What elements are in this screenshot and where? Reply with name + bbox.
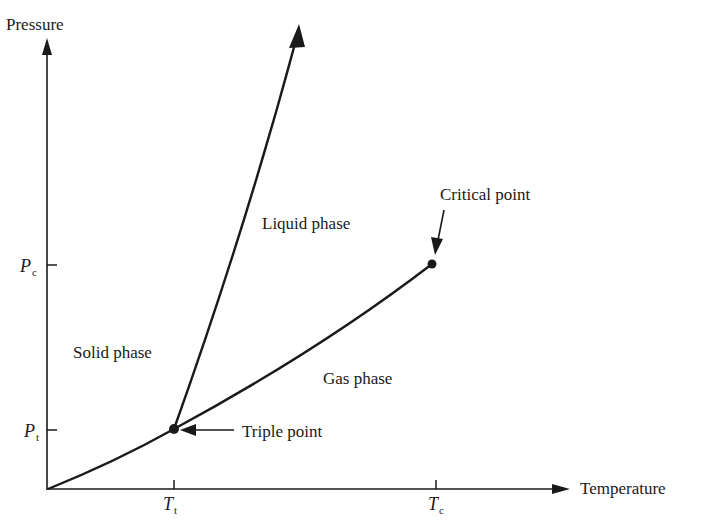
y-axis [42,38,57,490]
gas-phase-label: Gas phase [323,369,392,388]
x-tick-tt: Tt [163,494,177,516]
x-tick-tc: Tc [428,494,444,516]
liquid-phase-label: Liquid phase [262,214,350,233]
y-axis-label: Pressure [6,15,64,34]
y-tick-pc: Pc [19,256,37,278]
triple-point-marker [169,424,179,434]
critical-point-marker [428,260,437,269]
x-axis-arrow-icon [552,484,570,494]
melting-curve-arrow-icon [289,24,305,48]
sublimation-curve [48,429,174,489]
critical-point-label: Critical point [440,185,530,204]
x-axis [47,480,570,494]
y-axis-arrow-icon [42,38,52,55]
triple-point-label: Triple point [242,422,322,441]
phase-diagram: Pressure Temperature Pc Pt Tt Tc Triple … [0,0,714,525]
x-axis-label: Temperature [580,479,666,498]
solid-phase-label: Solid phase [73,343,152,362]
y-tick-pt: Pt [23,421,39,443]
critical-point-arrow-icon [431,237,443,255]
vaporization-curve [174,264,432,429]
